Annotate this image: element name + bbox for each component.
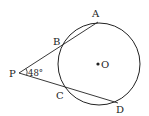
center-dot: [96, 62, 99, 65]
label-b: B: [53, 36, 60, 47]
label-p: P: [9, 68, 16, 79]
label-a: A: [91, 8, 100, 19]
label-d: D: [116, 104, 124, 115]
label-o: O: [101, 59, 109, 70]
angle-arc: [26, 69, 27, 76]
geometry-diagram: P 48° A B C D O: [0, 0, 149, 116]
label-c: C: [56, 90, 64, 101]
angle-label: 48°: [28, 68, 43, 78]
